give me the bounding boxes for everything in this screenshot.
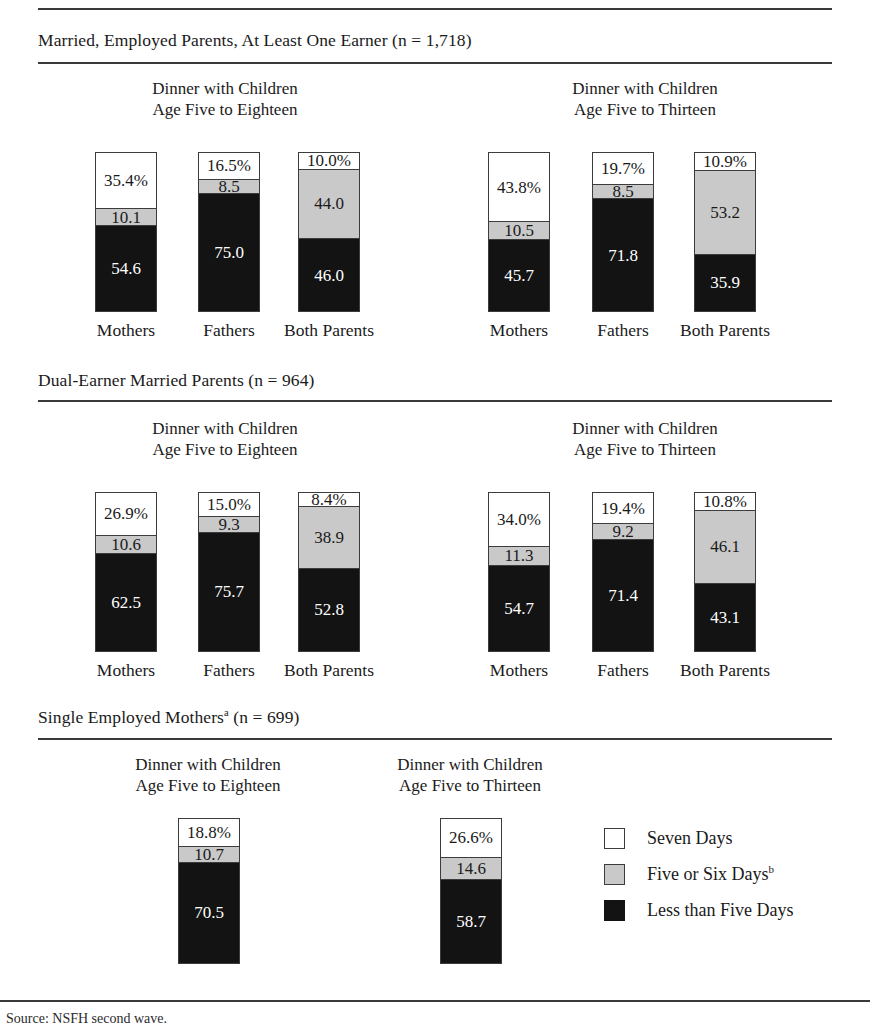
segment-seven-days: 26.9%	[96, 493, 156, 535]
panel-heading-line1: Dinner with Children	[80, 418, 370, 439]
section-title-dual-earner: Dual-Earner Married Parents (n = 964)	[38, 370, 314, 391]
segment-five-or-six-days: 8.5	[593, 184, 653, 199]
segment-value: 10.6	[111, 536, 141, 553]
segment-seven-days: 8.4%	[299, 493, 359, 506]
stacked-bar[interactable]: 19.7% 8.5 71.8	[592, 152, 654, 312]
bar-label: Mothers	[66, 320, 186, 341]
bar-label: Both Parents	[665, 660, 785, 681]
segment-five-or-six-days: 14.6	[441, 857, 501, 880]
segment-value: 14.6	[456, 860, 486, 877]
panel-heading-line1: Dinner with Children	[500, 418, 790, 439]
segment-five-or-six-days: 46.1	[695, 510, 755, 584]
legend-swatch-icon	[604, 828, 625, 849]
bar-label: Mothers	[459, 660, 579, 681]
bar-label: Mothers	[459, 320, 579, 341]
panel-heading-1-1: Dinner with Children Age Five to Eightee…	[80, 78, 370, 120]
stacked-bar[interactable]: 43.8% 10.5 45.7	[488, 152, 550, 312]
stacked-bar[interactable]: 15.0% 9.3 75.7	[198, 492, 260, 652]
segment-value: 34.0%	[497, 511, 541, 528]
segment-value: 71.8	[608, 247, 638, 264]
panel-heading-2-2: Dinner with Children Age Five to Thirtee…	[500, 418, 790, 460]
panel-heading-line1: Dinner with Children	[63, 754, 353, 775]
segment-five-or-six-days: 11.3	[489, 546, 549, 566]
stacked-bar[interactable]: 16.5% 8.5 75.0	[198, 152, 260, 312]
segment-seven-days: 26.6%	[441, 819, 501, 857]
rule-section-1	[38, 62, 832, 64]
segment-seven-days: 10.8%	[695, 493, 755, 510]
segment-seven-days: 18.8%	[179, 819, 239, 846]
segment-less-than-five-days: 54.7	[489, 566, 549, 651]
panel-heading-line2: Age Five to Eighteen	[80, 99, 370, 120]
stacked-bar[interactable]: 18.8% 10.7 70.5	[178, 818, 240, 964]
segment-value: 26.6%	[449, 829, 493, 846]
segment-value: 35.4%	[104, 172, 148, 189]
segment-value: 9.3	[218, 516, 239, 533]
bar-label: Both Parents	[269, 660, 389, 681]
segment-five-or-six-days: 53.2	[695, 170, 755, 255]
segment-less-than-five-days: 75.7	[199, 533, 259, 651]
segment-value: 45.7	[504, 267, 534, 284]
stacked-bar[interactable]: 8.4% 38.9 52.8	[298, 492, 360, 652]
panel-heading-line1: Dinner with Children	[80, 78, 370, 99]
segment-value: 18.8%	[187, 824, 231, 841]
segment-value: 9.2	[612, 523, 633, 540]
legend-label: Seven Days	[647, 828, 732, 849]
segment-five-or-six-days: 10.1	[96, 208, 156, 226]
segment-value: 10.5	[504, 222, 534, 239]
segment-value: 75.0	[214, 244, 244, 261]
stacked-bar[interactable]: 26.6% 14.6 58.7	[440, 818, 502, 964]
segment-value: 54.7	[504, 600, 534, 617]
segment-value: 43.1	[710, 609, 740, 626]
bar-label: Mothers	[66, 660, 186, 681]
legend-item-five-or-six-days[interactable]: Five or Six Daysb	[604, 856, 793, 892]
legend-swatch-icon	[604, 900, 625, 921]
segment-value: 70.5	[194, 904, 224, 921]
stacked-bar[interactable]: 26.9% 10.6 62.5	[95, 492, 157, 652]
segment-value: 10.1	[111, 209, 141, 226]
segment-seven-days: 19.4%	[593, 493, 653, 523]
legend-item-less-than-five-days[interactable]: Less than Five Days	[604, 892, 793, 928]
segment-less-than-five-days: 71.8	[593, 199, 653, 311]
bar-label: Both Parents	[665, 320, 785, 341]
segment-less-than-five-days: 43.1	[695, 584, 755, 651]
segment-seven-days: 10.9%	[695, 153, 755, 170]
segment-five-or-six-days: 8.5	[199, 179, 259, 194]
stacked-bar[interactable]: 19.4% 9.2 71.4	[592, 492, 654, 652]
segment-value: 43.8%	[497, 179, 541, 196]
panel-heading-3-1: Dinner with Children Age Five to Eightee…	[63, 754, 353, 796]
segment-value: 44.0	[314, 195, 344, 212]
stacked-bar[interactable]: 10.0% 44.0 46.0	[298, 152, 360, 312]
segment-value: 10.9%	[703, 153, 747, 170]
segment-seven-days: 10.0%	[299, 153, 359, 169]
segment-less-than-five-days: 62.5	[96, 554, 156, 652]
panel-heading-line2: Age Five to Eighteen	[80, 439, 370, 460]
segment-value: 54.6	[111, 260, 141, 277]
section-title-tail: (n = 699)	[229, 707, 300, 727]
segment-less-than-five-days: 58.7	[441, 880, 501, 963]
segment-value: 53.2	[710, 204, 740, 221]
section-title-single-mothers: Single Employed Mothersa (n = 699)	[38, 707, 299, 728]
stacked-bar[interactable]: 10.8% 46.1 43.1	[694, 492, 756, 652]
stacked-bar[interactable]: 34.0% 11.3 54.7	[488, 492, 550, 652]
stacked-bar[interactable]: 10.9% 53.2 35.9	[694, 152, 756, 312]
segment-less-than-five-days: 45.7	[489, 240, 549, 311]
legend-swatch-icon	[604, 864, 625, 885]
segment-five-or-six-days: 10.6	[96, 535, 156, 554]
segment-less-than-five-days: 54.6	[96, 226, 156, 311]
legend-item-seven-days[interactable]: Seven Days	[604, 820, 793, 856]
rule-section-3	[38, 738, 832, 740]
panel-heading-line1: Dinner with Children	[500, 78, 790, 99]
segment-less-than-five-days: 46.0	[299, 239, 359, 311]
segment-seven-days: 15.0%	[199, 493, 259, 516]
segment-value: 46.0	[314, 267, 344, 284]
panel-heading-3-2: Dinner with Children Age Five to Thirtee…	[325, 754, 615, 796]
segment-value: 19.4%	[601, 500, 645, 517]
segment-less-than-five-days: 71.4	[593, 540, 653, 651]
segment-five-or-six-days: 9.2	[593, 523, 653, 539]
segment-less-than-five-days: 75.0	[199, 194, 259, 311]
segment-value: 15.0%	[207, 496, 251, 513]
segment-five-or-six-days: 10.7	[179, 846, 239, 863]
stacked-bar[interactable]: 35.4% 10.1 54.6	[95, 152, 157, 312]
segment-less-than-five-days: 70.5	[179, 863, 239, 963]
